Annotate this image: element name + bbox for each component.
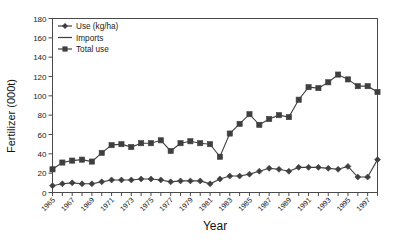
- data-point: [267, 116, 272, 121]
- y-tick-label: 60: [38, 131, 47, 140]
- x-tick-label: 1993: [315, 196, 333, 214]
- data-point: [99, 150, 104, 155]
- x-tick-label: 1975: [138, 196, 156, 214]
- data-point: [296, 97, 301, 102]
- data-point: [306, 164, 312, 170]
- data-point: [286, 115, 291, 120]
- data-point: [148, 141, 153, 146]
- data-point: [168, 148, 173, 153]
- data-point: [276, 166, 282, 172]
- data-point: [247, 112, 252, 117]
- data-point: [335, 166, 341, 172]
- x-tick-label: 1977: [157, 196, 175, 214]
- x-axis-ticks: 1965196719691971197319751977197919811983…: [39, 193, 377, 214]
- data-point: [139, 141, 144, 146]
- x-tick-label: 1971: [98, 196, 116, 214]
- data-point: [355, 84, 360, 89]
- data-point: [217, 176, 223, 182]
- x-tick-label: 1967: [59, 196, 77, 214]
- data-point: [365, 174, 371, 180]
- legend-label: Use (kg/ha): [76, 22, 119, 31]
- x-tick-label: 1997: [354, 196, 372, 214]
- data-point: [276, 113, 281, 118]
- x-tick-label: 1989: [276, 196, 294, 214]
- data-point: [286, 168, 292, 174]
- data-point: [306, 85, 311, 90]
- data-point: [217, 154, 222, 159]
- data-point: [227, 173, 233, 179]
- data-point: [246, 171, 252, 177]
- data-point: [296, 164, 302, 170]
- y-tick-label: 40: [38, 150, 47, 159]
- x-tick-label: 1995: [335, 196, 353, 214]
- x-tick-label: 1991: [295, 196, 313, 214]
- x-tick-label: 1969: [79, 196, 97, 214]
- data-point: [237, 173, 243, 179]
- data-point: [138, 176, 144, 182]
- chart-legend: Use (kg/ha)ImportsTotal use: [58, 22, 119, 54]
- data-point: [79, 157, 84, 162]
- x-tick-label: 1973: [118, 196, 136, 214]
- data-point: [79, 181, 85, 187]
- legend-marker-diamond: [62, 23, 68, 29]
- data-point: [178, 141, 183, 146]
- data-point: [207, 142, 212, 147]
- y-tick-label: 160: [33, 34, 47, 43]
- data-point: [70, 158, 75, 163]
- data-point: [375, 157, 381, 163]
- data-point: [197, 178, 203, 184]
- x-tick-label: 1987: [256, 196, 274, 214]
- data-point: [237, 121, 242, 126]
- data-point: [207, 181, 213, 187]
- data-point: [89, 181, 95, 187]
- x-tick-label: 1983: [217, 196, 235, 214]
- data-point: [99, 179, 105, 185]
- data-point: [118, 177, 124, 183]
- x-tick-label: 1979: [177, 196, 195, 214]
- data-point: [158, 138, 163, 143]
- data-point: [50, 183, 56, 189]
- data-point: [187, 178, 193, 184]
- data-point: [316, 86, 321, 91]
- data-point: [326, 80, 331, 85]
- x-tick-label: 1965: [39, 196, 57, 214]
- data-point: [129, 144, 134, 149]
- data-point: [257, 122, 262, 127]
- y-tick-label: 140: [33, 53, 47, 62]
- y-tick-label: 100: [33, 92, 47, 101]
- data-point: [336, 72, 341, 77]
- fertilizer-chart: Fertilizer (000t) 0204060801001201401601…: [0, 0, 396, 242]
- legend-marker-square: [62, 46, 67, 51]
- data-point: [69, 180, 75, 186]
- data-point: [266, 165, 272, 171]
- data-point: [50, 167, 55, 172]
- x-tick-label: 1985: [236, 196, 254, 214]
- data-series: [50, 72, 381, 189]
- data-point: [128, 177, 134, 183]
- legend-label: Imports: [76, 34, 103, 43]
- x-tick-label: 1981: [197, 196, 215, 214]
- data-point: [256, 168, 262, 174]
- data-point: [365, 84, 370, 89]
- data-point: [227, 131, 232, 136]
- y-tick-label: 0: [42, 189, 47, 198]
- data-point: [198, 141, 203, 146]
- data-point: [178, 178, 184, 184]
- data-point: [375, 89, 380, 94]
- data-point: [119, 142, 124, 147]
- x-axis-title: Year: [52, 219, 378, 233]
- data-point: [325, 165, 331, 171]
- y-tick-label: 120: [33, 73, 47, 82]
- data-point: [158, 177, 164, 183]
- y-tick-label: 80: [38, 111, 47, 120]
- data-point: [59, 181, 65, 187]
- data-point: [188, 139, 193, 144]
- data-point: [109, 177, 115, 183]
- legend-label: Total use: [76, 45, 109, 54]
- data-point: [89, 159, 94, 164]
- plot-canvas: 020406080100120140160180 196519671969197…: [0, 0, 396, 242]
- data-point: [345, 77, 350, 82]
- y-axis-ticks: 020406080100120140160180: [33, 15, 52, 198]
- data-point: [168, 179, 174, 185]
- data-point: [60, 160, 65, 165]
